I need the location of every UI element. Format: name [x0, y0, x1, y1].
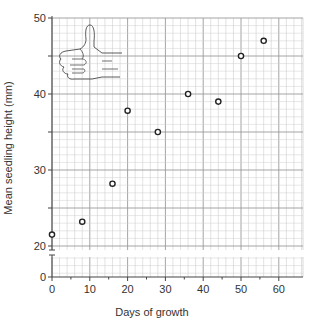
x-tick-label: 50 [235, 283, 247, 295]
x-tick-label: 20 [121, 283, 133, 295]
data-point [216, 99, 221, 104]
data-point [80, 219, 85, 224]
data-point [185, 91, 190, 96]
x-axis-label: Days of growth [115, 306, 188, 318]
data-point [110, 181, 115, 186]
x-tick-label: 60 [273, 283, 285, 295]
x-tick-label: 40 [197, 283, 209, 295]
y-tick-label: 0 [40, 271, 46, 283]
y-tick-label: 20 [34, 240, 46, 252]
x-tick-label: 0 [49, 283, 55, 295]
grid [50, 18, 305, 277]
data-point [261, 38, 266, 43]
x-tick-label: 30 [159, 283, 171, 295]
data-point [125, 108, 130, 113]
scatter-chart: 0203040500102030405060 Days of growth Me… [0, 0, 321, 326]
y-axis-label: Mean seedling height (mm) [2, 81, 14, 214]
y-tick-label: 30 [34, 164, 46, 176]
y-tick-label: 50 [34, 12, 46, 24]
x-tick-label: 10 [84, 283, 96, 295]
data-point [49, 232, 54, 237]
data-point [155, 129, 160, 134]
data-point [238, 53, 243, 58]
y-tick-label: 40 [34, 88, 46, 100]
